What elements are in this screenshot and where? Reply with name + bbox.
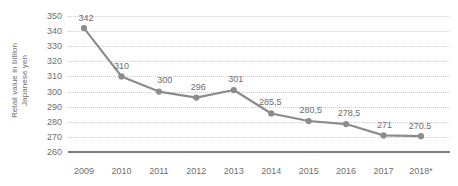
y-axis-tick-label: 310 [36,72,62,81]
data-point-marker [193,95,199,101]
line-chart: Retail value in billion Japanese yen 350… [0,0,458,186]
y-axis-title-line-1: Retail value in billion [11,42,21,117]
y-axis-tick-label: 340 [36,27,62,36]
plot-area: 342310300296301285,5280,5278,5271270.5 [68,8,450,160]
y-axis-tick-label: 260 [36,148,62,157]
data-point-label: 270.5 [398,122,442,131]
y-axis-tick-label: 330 [36,42,62,51]
data-point-marker [81,25,87,31]
data-point-label: 301 [214,75,258,84]
y-axis-tick-label: 280 [36,118,62,127]
data-point-label: 285,5 [248,98,292,107]
y-axis-tick-label: 320 [36,57,62,66]
y-axis-tick-label: 300 [36,88,62,97]
x-axis-tick-label: 2018* [398,166,444,176]
y-axis-tick-label: 270 [36,133,62,142]
data-point-label: 310 [99,62,143,71]
data-point-marker [343,121,349,127]
data-point-label: 342 [64,14,108,23]
data-point-marker [306,118,312,124]
data-point-marker [156,88,162,94]
data-point-label: 278,5 [327,109,371,118]
y-axis-tick-label: 290 [36,103,62,112]
y-axis-title-line-2: Japanese yen [20,42,30,117]
data-point-marker [268,110,274,116]
data-point-marker [231,87,237,93]
y-axis-tick-label: 350 [36,12,62,21]
series-line [68,8,450,160]
data-point-label: 280,5 [289,106,333,115]
data-point-marker [418,133,424,139]
data-point-marker [380,132,386,138]
data-point-marker [118,73,124,79]
y-axis-title: Retail value in billion Japanese yen [0,0,40,160]
